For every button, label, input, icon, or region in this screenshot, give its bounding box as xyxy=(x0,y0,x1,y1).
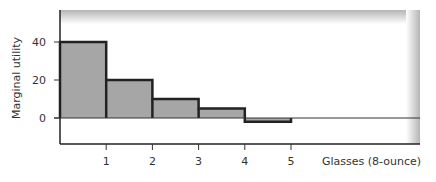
bars-group xyxy=(60,42,291,122)
bar-2 xyxy=(106,80,152,118)
x-tick-label: 2 xyxy=(149,155,156,168)
y-tick-label: 0 xyxy=(39,112,46,125)
bar-1 xyxy=(60,42,106,118)
x-tick-label: 3 xyxy=(195,155,202,168)
y-axis-title: Marginal utility xyxy=(10,36,23,119)
bar-4 xyxy=(199,109,245,119)
bar-3 xyxy=(152,99,198,118)
x-ticks: 12345 xyxy=(103,144,295,168)
y-tick-label: 20 xyxy=(32,74,46,87)
x-tick-label: 5 xyxy=(288,155,295,168)
x-tick-label: 4 xyxy=(241,155,248,168)
plot-frame-shading xyxy=(60,10,420,144)
y-ticks: 02040 xyxy=(32,36,60,125)
x-axis-title: Glasses (8-ounce) xyxy=(322,155,421,168)
x-tick-label: 1 xyxy=(103,155,110,168)
y-tick-label: 40 xyxy=(32,36,46,49)
marginal-utility-chart: 02040 12345 Marginal utility Glasses (8-… xyxy=(0,0,436,182)
